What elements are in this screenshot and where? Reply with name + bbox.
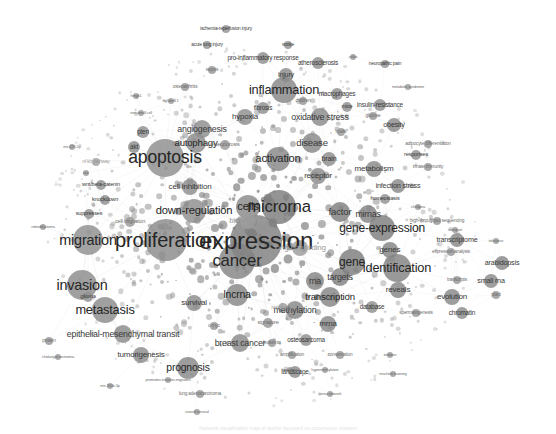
network-node-label: tolerance: [489, 239, 504, 243]
network-node-label: amplification: [280, 353, 304, 358]
network-node-label: mice: [341, 104, 352, 110]
network-node-label: glucose: [365, 114, 380, 119]
network-node-label: cancer: [212, 253, 261, 270]
network-node-label: factor: [329, 207, 352, 217]
network-node-label: innate immunity: [413, 165, 444, 170]
network-node-label: reveals: [386, 286, 410, 294]
network-node-label: identification: [363, 262, 431, 275]
network-node-label: fibrosis: [254, 105, 273, 111]
network-node-label: homeostasis: [370, 196, 399, 202]
network-node-label: prognosis: [166, 363, 209, 373]
network-node-label: obesity: [383, 121, 404, 128]
network-node-label: transport: [448, 228, 462, 232]
network-node-label: neuropathic pain: [369, 62, 401, 67]
network-node-label: mir-125-5p: [63, 145, 80, 149]
network-node-label: machine learning: [379, 372, 406, 376]
network-node-label: metastasis: [75, 304, 134, 317]
network-node-label: transcripts: [447, 278, 467, 283]
network-node-label: c-myc: [208, 324, 220, 329]
network-node-label: mirnas: [355, 210, 380, 219]
network-node-label: akt: [130, 144, 138, 150]
network-node-label: transcriptome: [437, 236, 478, 243]
network-label-layer: expressionproliferationmicrornacancerapo…: [0, 0, 556, 434]
network-node-label: proliferation: [115, 230, 217, 250]
network-node-label: sepsis: [206, 68, 218, 73]
network-node-label: angiogenesis: [177, 125, 226, 134]
network-node-label: evolution: [437, 293, 467, 301]
network-node-label: genes: [380, 246, 401, 254]
network-node-label: targets: [327, 273, 353, 282]
network-node-label: glioma: [80, 294, 95, 300]
network-node-label: arabidopsis: [485, 259, 520, 266]
network-node-label: apoptosis: [128, 149, 202, 167]
network-node-label: resistance: [271, 305, 295, 311]
network-node-label: survival: [181, 299, 207, 307]
network-node-label: suppresses: [76, 211, 103, 217]
network-node-label: tumorigenesis: [117, 351, 164, 359]
network-node-label: t-cells: [335, 130, 346, 135]
network-node-label: inflammation: [249, 84, 319, 97]
network-node-label: injury: [278, 71, 294, 78]
network-node-label: conservation: [328, 353, 353, 358]
network-node-label: database: [360, 304, 385, 310]
network-node-label: oxidative stress: [291, 113, 348, 122]
network-node-label: wnt/beta-catenin: [82, 182, 120, 188]
network-node-label: leukemia: [263, 341, 281, 346]
network-node-label: promotes invasion-migration: [146, 378, 191, 382]
network-node-label: macrophages: [319, 91, 356, 97]
network-node-label: hmgb1: [130, 94, 141, 98]
network-node-label: tgf-beta 1: [164, 99, 179, 103]
network-node-label: nf-kb pathway: [82, 160, 109, 165]
network-node-label: osteoarthritis: [173, 85, 198, 90]
network-node-label: gene-expression: [339, 222, 425, 234]
network-map-canvas[interactable]: expressionproliferationmicrornacancerapo…: [0, 0, 556, 434]
network-node-label: adipocyte differentiation: [405, 142, 451, 147]
network-node-label: cerna network: [319, 392, 342, 396]
network-node-label: rna: [309, 277, 321, 286]
network-node-label: cell inhibition: [169, 183, 212, 191]
network-node-label: children: [295, 99, 310, 104]
network-node-label: cell migration: [115, 219, 145, 225]
network-node-label: invasion: [56, 278, 107, 292]
network-node-label: insulin-resistance: [357, 102, 403, 108]
network-node-label: lung adenocarcinoma: [179, 392, 221, 397]
network-node-label: knockdown: [92, 197, 118, 203]
network-node-label: chromatin: [449, 310, 475, 316]
network-node-label: cholangiocarcinoma: [42, 355, 74, 359]
network-node-label: mir-200b-3p: [100, 384, 119, 388]
network-node-label: transcription: [305, 292, 355, 302]
network-node-label: responses: [404, 152, 428, 158]
network-node-label: cells: [237, 201, 258, 212]
network-node-label: ischemia-reperfusion injury: [200, 27, 252, 32]
network-node-label: osteoporosis: [210, 142, 239, 148]
network-node-label: pten: [137, 129, 149, 135]
network-node-label: retinoblastoma: [31, 225, 54, 229]
network-node-label: atherosclerosis: [298, 60, 338, 66]
network-node-label: breast cancer: [215, 339, 266, 348]
network-node-label: lncrna: [223, 290, 250, 300]
figure-caption: Network visualization map of author keyw…: [0, 425, 556, 432]
network-node-label: spermatogenesis: [399, 311, 433, 316]
network-node-label: disease: [296, 138, 328, 148]
network-node-label: receptor: [304, 172, 332, 180]
network-node-label: metabolic syndrome: [392, 85, 424, 89]
network-node-label: gene: [339, 256, 365, 268]
network-node-label: epithelial-mesenchymal transit: [67, 330, 179, 339]
network-node-label: lymphoma: [282, 368, 299, 372]
network-node-label: stroke: [282, 43, 294, 48]
network-node-label: biomarkers: [229, 217, 267, 225]
network-node-label: brain: [322, 155, 337, 162]
network-node-label: initiation: [384, 353, 397, 357]
network-node-label: pro-inflammatory response: [227, 55, 298, 61]
network-node-label: expression analysis: [432, 250, 470, 255]
network-node-label: long noncoding: [274, 244, 325, 252]
network-node-label: overall survival: [185, 410, 208, 414]
network-node-label: plant: [491, 293, 500, 298]
network-node-label: nac: [83, 171, 89, 175]
network-node-label: metabolism: [355, 165, 394, 173]
network-node-label: infection stress: [376, 182, 421, 189]
network-node-label: activation: [255, 153, 300, 164]
network-node-label: colitis: [349, 55, 358, 59]
network-node-label: small rna: [477, 277, 504, 284]
network-node-label: migration: [59, 233, 116, 247]
